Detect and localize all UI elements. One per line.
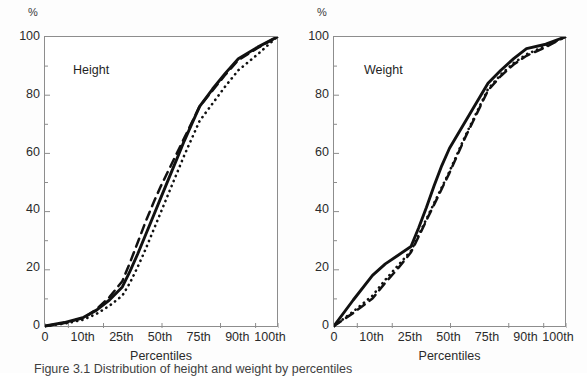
plot-area-height: Height [44,36,278,327]
chart-panel-weight: % 100806040200 [293,0,587,373]
x-axis-ticks [45,323,279,328]
y-tick-label: 60 [295,145,329,159]
series-lines [45,37,277,326]
x-tick-label: 10th [359,330,383,344]
x-axis-title-weight: Percentiles [419,349,481,363]
y-tick-label: 60 [6,145,40,159]
panel-title-weight: Weight [364,63,403,77]
x-tick-label: 25th [398,330,422,344]
y-tick-label: 100 [295,29,329,43]
y-tick-label: 20 [295,260,329,274]
y-tick-label: 20 [6,260,40,274]
x-tick-label: 75th [475,330,499,344]
x-tick-label: 50th [148,330,172,344]
series-dashed-height [45,37,277,326]
x-tick-label: 90th [225,330,249,344]
y-tick-label: 80 [6,87,40,101]
x-tick-label: 0 [42,330,49,344]
x-tick-label: 10th [70,330,94,344]
y-axis-unit-label: % [28,6,38,18]
x-tick-label: 25th [109,330,133,344]
plot-area-weight: Weight [333,36,566,327]
x-tick-label: 100th [542,330,573,344]
y-axis-unit-label: % [317,6,327,18]
series-solid-height [45,37,277,326]
y-tick-label: 80 [295,87,329,101]
x-axis-ticks [334,323,567,328]
series-solid-weight [334,37,565,326]
series-dotted-height [45,37,277,326]
y-axis-ticks [45,66,50,299]
y-tick-label: 100 [6,29,40,43]
chart-panel-height: % 100806040200 [0,0,293,373]
x-tick-label: 100th [254,330,285,344]
x-tick-label: 90th [513,330,537,344]
x-axis-title-height: Percentiles [130,349,192,363]
panel-title-height: Height [73,63,109,77]
y-tick-label: 40 [295,202,329,216]
figure-caption: Figure 3.1 Distribution of height and we… [0,362,587,376]
y-tick-label: 0 [295,318,329,332]
height-curves-svg [45,37,279,328]
y-axis-ticks [334,66,339,299]
x-tick-label: 75th [186,330,210,344]
y-tick-label: 0 [6,318,40,332]
weight-curves-svg [334,37,567,328]
x-tick-label: 0 [331,330,338,344]
x-tick-label: 50th [436,330,460,344]
y-tick-label: 40 [6,202,40,216]
series-lines [334,37,565,326]
